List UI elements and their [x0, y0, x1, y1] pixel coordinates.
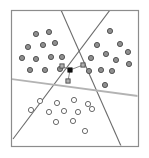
- data-point: [89, 106, 94, 111]
- data-point: [52, 40, 57, 45]
- plot-frame: [12, 11, 139, 147]
- boundary-lines-group: [11, 10, 138, 146]
- boundary-line-2: [13, 10, 110, 139]
- data-point: [98, 67, 103, 72]
- data-point: [54, 100, 59, 105]
- data-point: [33, 56, 38, 61]
- data-point: [94, 42, 99, 47]
- query-point: [68, 68, 72, 72]
- data-point: [46, 29, 51, 34]
- data-point: [70, 118, 75, 123]
- data-point: [25, 44, 30, 49]
- scatter-plot-svg: [0, 0, 149, 158]
- boundary-line-3: [11, 79, 138, 96]
- series-class-a-filled-upper-left: [19, 29, 64, 72]
- data-point: [37, 98, 42, 103]
- data-point: [27, 67, 32, 72]
- neighbour-2: [81, 63, 85, 67]
- neighbour-links-group: [62, 65, 83, 81]
- data-point: [109, 68, 114, 73]
- data-point: [71, 97, 76, 102]
- data-point: [28, 107, 33, 112]
- data-point: [103, 51, 108, 56]
- data-point: [40, 42, 45, 47]
- data-point: [125, 49, 130, 54]
- data-point: [46, 109, 51, 114]
- neighbour-1: [60, 64, 64, 68]
- data-point: [85, 101, 90, 106]
- data-point: [86, 68, 91, 73]
- data-point: [88, 55, 93, 60]
- data-point: [117, 41, 122, 46]
- data-point: [53, 119, 58, 124]
- series-class-b-open-lower: [28, 97, 94, 133]
- neighbour-3: [66, 79, 70, 83]
- data-point: [82, 128, 87, 133]
- data-point: [59, 54, 64, 59]
- data-point: [113, 57, 118, 62]
- data-point: [126, 61, 131, 66]
- neighbour-markers-group: [60, 63, 85, 83]
- series-class-a-filled-upper-right: [86, 28, 131, 87]
- data-point: [102, 82, 107, 87]
- data-point: [42, 67, 47, 72]
- data-point: [107, 28, 112, 33]
- data-point: [33, 31, 38, 36]
- data-point: [19, 55, 24, 60]
- scatter-figure: [0, 0, 149, 158]
- data-point: [48, 54, 53, 59]
- data-point: [61, 108, 66, 113]
- data-point: [75, 109, 80, 114]
